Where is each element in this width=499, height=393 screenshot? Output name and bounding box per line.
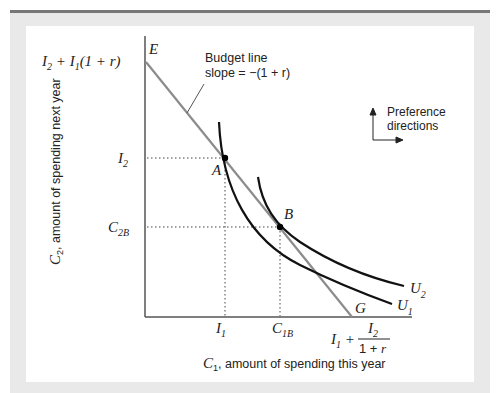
x-axis-title: C1, amount of spending this year <box>203 355 386 373</box>
arrow-up-icon <box>370 108 376 115</box>
label-G: G <box>355 300 366 316</box>
y-tick-C2B: C2B <box>108 219 129 238</box>
guide-lines <box>147 158 280 316</box>
preference-label-line1: Preference <box>387 105 446 119</box>
label-U2: U2 <box>410 280 426 300</box>
y-tick-E-value: I2 + I1(1 + r) <box>41 53 121 72</box>
intertemporal-choice-diagram: E A B G U2 U1 Budget line slope = −(1 + … <box>0 0 499 393</box>
x-tick-I1: I1 <box>215 320 226 339</box>
budget-label-leader <box>187 84 204 113</box>
x-tick-G-value: I1 + I2 1 + r <box>330 320 390 356</box>
budget-line <box>146 62 352 317</box>
label-E: E <box>148 41 158 57</box>
y-axis-title: C2, amount of spending next year <box>47 78 65 265</box>
preference-label-line2: directions <box>387 119 438 133</box>
budget-slope-label: slope = −(1 + r) <box>205 66 290 80</box>
label-B: B <box>284 206 293 222</box>
y-tick-I2: I2 <box>117 150 128 169</box>
x-tick-C1B: C1B <box>272 320 293 339</box>
label-U1: U1 <box>397 297 413 317</box>
arrow-right-icon <box>396 137 403 143</box>
svg-text:1 + r: 1 + r <box>359 341 387 356</box>
point-A-marker <box>222 155 228 161</box>
budget-line-label: Budget line <box>205 51 268 65</box>
point-B-marker <box>277 224 283 230</box>
svg-text:I2: I2 <box>367 320 378 339</box>
indifference-curve-U1 <box>219 122 392 304</box>
svg-text:I1 +: I1 + <box>330 331 355 350</box>
label-A: A <box>211 162 222 178</box>
